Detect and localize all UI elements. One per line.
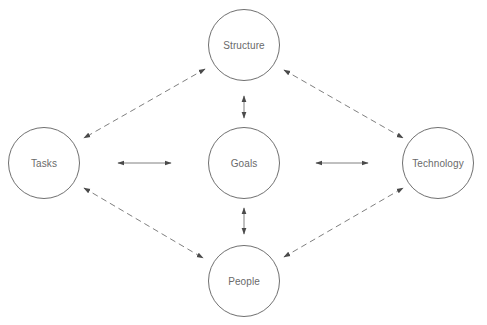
node-technology: Technology bbox=[402, 127, 474, 199]
node-structure: Structure bbox=[208, 9, 280, 81]
node-label-people: People bbox=[228, 276, 260, 287]
node-people: People bbox=[208, 245, 280, 317]
node-label-tasks: Tasks bbox=[31, 158, 57, 169]
diagram: Structure Tasks Goals Technology People bbox=[0, 0, 487, 325]
node-goals: Goals bbox=[208, 127, 280, 199]
node-label-structure: Structure bbox=[223, 40, 264, 51]
arrow-structure-tasks bbox=[84, 69, 205, 138]
node-tasks: Tasks bbox=[8, 127, 80, 199]
arrow-tasks-people bbox=[84, 188, 203, 258]
arrow-structure-technology bbox=[284, 70, 403, 138]
node-label-goals: Goals bbox=[231, 158, 258, 169]
node-label-technology: Technology bbox=[412, 158, 464, 169]
arrow-people-technology bbox=[284, 188, 403, 257]
